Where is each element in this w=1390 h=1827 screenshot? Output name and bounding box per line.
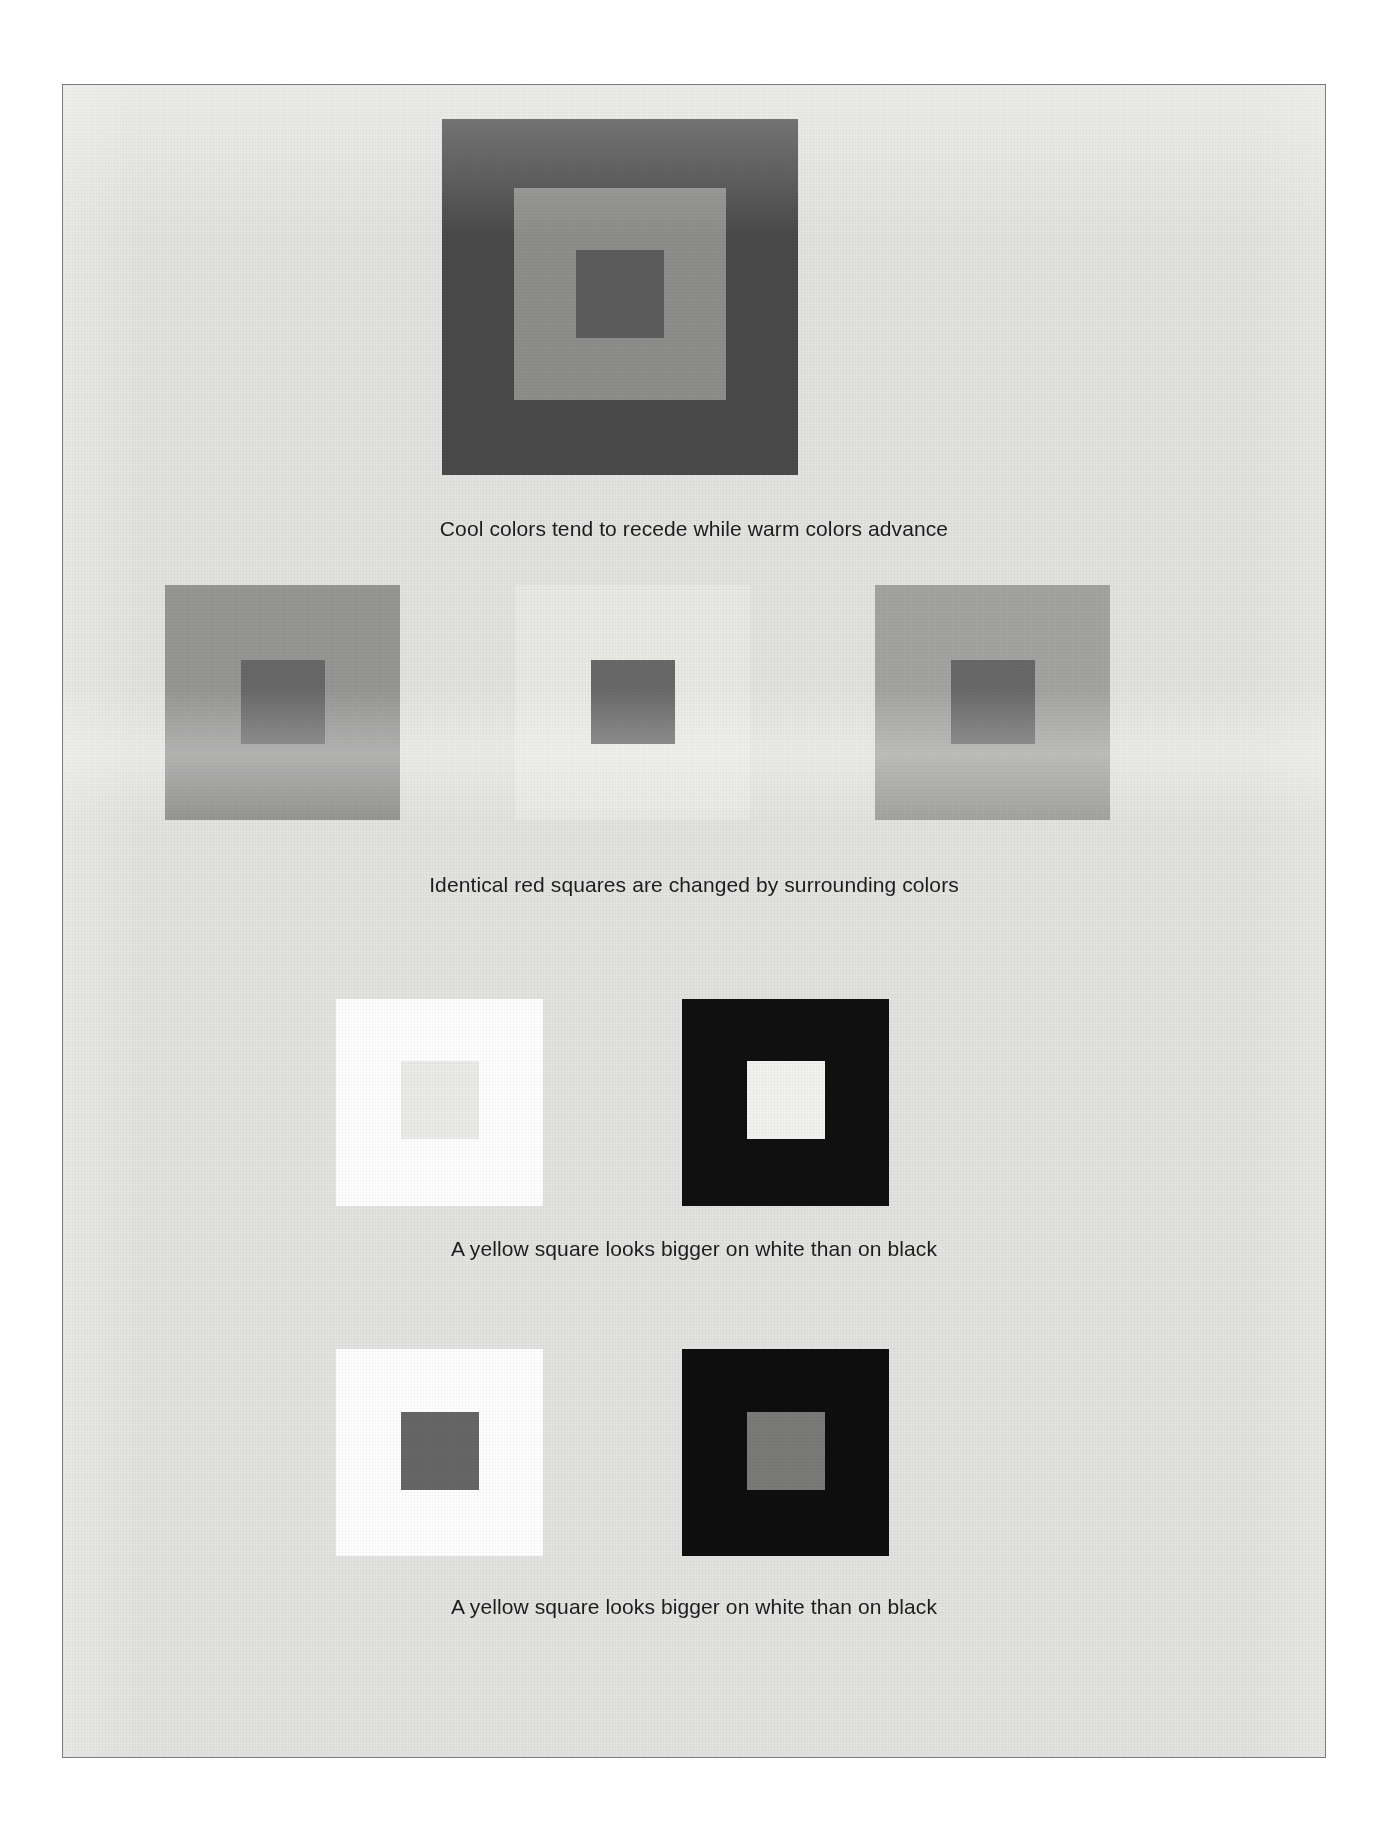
red-square-on-light-gray bbox=[515, 585, 750, 820]
figure-cool-warm: Cool colors tend to recede while warm co… bbox=[63, 85, 1325, 625]
light-square-on-black bbox=[682, 999, 889, 1206]
caption-identical-red-squares: Identical red squares are changed by sur… bbox=[63, 873, 1325, 897]
light-inner-square-on-black bbox=[747, 1061, 825, 1139]
red-square-on-medium-gray bbox=[165, 585, 400, 820]
caption-yellow-size-illusion-light: A yellow square looks bigger on white th… bbox=[63, 1237, 1325, 1261]
dark-square-on-white bbox=[336, 1349, 543, 1556]
light-square-on-white bbox=[336, 999, 543, 1206]
dark-inner-square-on-white bbox=[401, 1412, 479, 1490]
dark-inner-square-on-black bbox=[747, 1412, 825, 1490]
light-inner-square-on-white bbox=[401, 1061, 479, 1139]
figure-yellow-size-illusion-dark: A yellow square looks bigger on white th… bbox=[63, 1265, 1325, 1685]
red-inner-square-left bbox=[241, 660, 325, 744]
figure-yellow-size-illusion-light: A yellow square looks bigger on white th… bbox=[63, 915, 1325, 1305]
illustration-plate: Cool colors tend to recede while warm co… bbox=[62, 84, 1326, 1758]
cool-warm-mid-square bbox=[514, 188, 726, 400]
red-inner-square-center bbox=[591, 660, 675, 744]
red-inner-square-right bbox=[951, 660, 1035, 744]
cool-warm-inner-square bbox=[576, 250, 664, 338]
figure-identical-red-squares: Identical red squares are changed by sur… bbox=[63, 555, 1325, 975]
cool-warm-nested-square bbox=[442, 119, 798, 475]
caption-yellow-size-illusion-dark: A yellow square looks bigger on white th… bbox=[63, 1595, 1325, 1619]
caption-cool-warm: Cool colors tend to recede while warm co… bbox=[63, 517, 1325, 541]
red-square-on-mid-light-gray bbox=[875, 585, 1110, 820]
dark-square-on-black bbox=[682, 1349, 889, 1556]
